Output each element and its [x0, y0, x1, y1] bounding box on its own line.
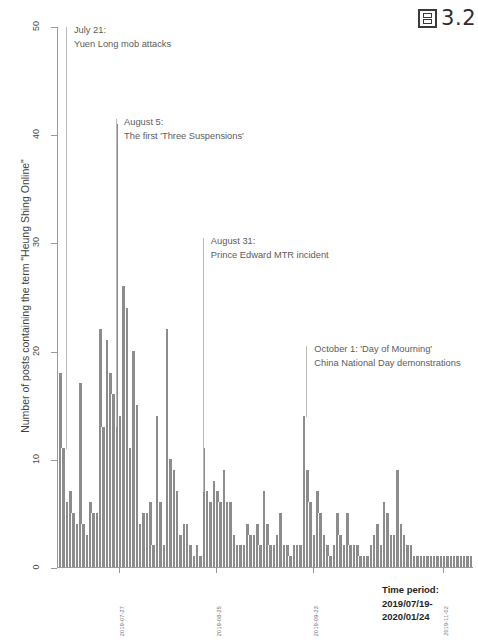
x-axis-tick — [443, 568, 444, 573]
y-axis-title: Number of posts containing the term "Heu… — [19, 81, 31, 511]
y-axis-tick — [51, 27, 57, 28]
bar — [469, 556, 473, 567]
y-axis-tick-label: 30 — [31, 229, 41, 255]
annotation-date: August 31: — [211, 234, 329, 248]
time-period-heading: Time period: — [382, 583, 439, 597]
y-axis-tick-label: 10 — [31, 446, 41, 472]
annotation-text: October 1: 'Day of Mourning'China Nation… — [314, 342, 460, 370]
time-period-start: 2019/07/19- — [382, 597, 439, 611]
plot-area: 01020304050 2019-07-272019-08-252019-09-… — [57, 27, 473, 568]
annotation-leader-line — [203, 238, 204, 492]
y-axis-tick-label: 0 — [31, 554, 41, 580]
figure-icon — [418, 9, 437, 28]
y-axis-tick — [51, 460, 57, 461]
annotation-leader-line — [116, 119, 117, 427]
y-axis-tick-label: 20 — [31, 338, 41, 364]
x-axis-tick-label: 2019-07-27 — [119, 606, 125, 640]
bar-series — [58, 27, 473, 567]
y-axis-tick — [51, 352, 57, 353]
y-axis-tick — [51, 243, 57, 244]
annotation-text: August 5:The first 'Three Suspensions' — [124, 115, 244, 143]
annotation-leader-line — [66, 27, 67, 449]
x-axis-tick — [313, 568, 314, 573]
x-axis-tick — [119, 568, 120, 573]
x-axis-tick-label: 2019-08-25 — [216, 606, 222, 640]
annotation-date: October 1: 'Day of Mourning' — [314, 342, 460, 356]
annotation-event: The first 'Three Suspensions' — [124, 129, 244, 143]
annotation-text: July 21:Yuen Long mob attacks — [74, 23, 171, 51]
annotation-date: August 5: — [124, 115, 244, 129]
x-axis-tick-label: 2019-11-02 — [443, 606, 449, 640]
y-axis-tick — [51, 568, 57, 569]
y-axis-tick-label: 40 — [31, 121, 41, 147]
y-axis-tick-label: 50 — [31, 13, 41, 39]
annotation-event: Prince Edward MTR incident — [211, 248, 329, 262]
time-period-note: Time period: 2019/07/19- 2020/01/24 — [382, 583, 439, 624]
x-axis-tick-label: 2019-09-23 — [313, 606, 319, 640]
x-axis-tick — [216, 568, 217, 573]
time-period-end: 2020/01/24 — [382, 610, 439, 624]
annotation-text: August 31:Prince Edward MTR incident — [211, 234, 329, 262]
annotation-date: July 21: — [74, 23, 171, 37]
annotation-event: Yuen Long mob attacks — [74, 37, 171, 51]
annotation-event: China National Day demonstrations — [314, 356, 460, 370]
annotation-leader-line — [306, 346, 307, 416]
y-axis-tick — [51, 135, 57, 136]
